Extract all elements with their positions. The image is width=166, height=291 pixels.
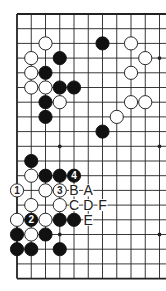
point-letter-label: C	[69, 197, 79, 213]
white-stone	[53, 96, 66, 109]
white-stone	[10, 213, 23, 226]
black-stone	[53, 243, 66, 256]
white-stone	[53, 199, 66, 212]
black-stone: 4	[67, 169, 80, 182]
white-stone	[139, 96, 152, 109]
black-stone	[39, 110, 52, 123]
white-stone	[25, 81, 38, 94]
black-stone	[10, 243, 23, 256]
star-point	[58, 233, 62, 237]
white-stone	[39, 37, 52, 50]
point-letter-label: F	[98, 197, 107, 213]
point-letter-label: B	[69, 182, 78, 198]
white-stone	[25, 199, 38, 212]
white-stone	[124, 96, 137, 109]
white-stone	[124, 37, 137, 50]
black-stone	[67, 213, 80, 226]
black-stone	[10, 228, 23, 241]
white-stone	[39, 81, 52, 94]
move-number-label: 2	[28, 214, 34, 225]
black-stone	[25, 154, 38, 167]
white-stone	[25, 228, 38, 241]
white-stone	[39, 184, 52, 197]
white-stone	[124, 66, 137, 79]
white-stone	[25, 66, 38, 79]
black-stone	[53, 213, 66, 226]
white-stone	[39, 213, 52, 226]
white-stone	[110, 110, 123, 123]
black-stone	[96, 37, 109, 50]
black-stone	[39, 66, 52, 79]
move-number-label: 4	[71, 170, 77, 181]
point-letter-label: E	[84, 212, 93, 228]
move-number-label: 3	[57, 185, 63, 196]
point-letter-label: A	[84, 182, 94, 198]
black-stone	[39, 228, 52, 241]
white-stone: 3	[53, 184, 66, 197]
black-stone	[53, 52, 66, 65]
point-letter-label: D	[83, 197, 93, 213]
black-stone	[53, 169, 66, 182]
star-point	[158, 56, 162, 60]
white-stone	[25, 52, 38, 65]
black-stone	[96, 125, 109, 138]
black-stone	[39, 96, 52, 109]
black-stone: 2	[25, 213, 38, 226]
star-point	[58, 144, 62, 148]
go-board-diagram: 4132 BACDFE	[0, 0, 166, 291]
black-stone	[25, 243, 38, 256]
white-stone	[25, 169, 38, 182]
move-number-label: 1	[14, 185, 20, 196]
black-stone	[67, 81, 80, 94]
black-stone	[53, 81, 66, 94]
white-stone: 1	[10, 184, 23, 197]
black-stone	[39, 169, 52, 182]
white-stone	[139, 52, 152, 65]
star-point	[158, 233, 162, 237]
star-point	[158, 144, 162, 148]
